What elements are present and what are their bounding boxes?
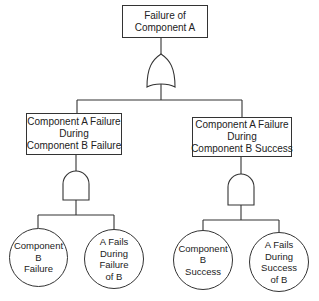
basic-event-component-b-failure: Component B Failure (9, 228, 68, 287)
basic-event-a-fails-during-failure-of-b: A Fails During Failure of B (84, 229, 144, 289)
and-gate-icon-right (228, 174, 254, 205)
top-event-box: Failure of Component A (122, 5, 208, 38)
basic-event-4-line-2: During (265, 251, 293, 263)
basic-event-3-line-2: B (200, 254, 206, 266)
basic-event-component-b-success: Component B Success (173, 230, 233, 290)
basic-event-2-line-2: During (100, 248, 128, 260)
basic-event-1-line-2: B (35, 252, 41, 264)
basic-event-4-line-1: A Fails (265, 239, 294, 251)
basic-event-3-line-3: Success (185, 266, 221, 278)
basic-event-2-line-4: of B (106, 271, 123, 283)
intermediate-left-line-1: Component A Failure (27, 116, 120, 128)
basic-event-a-fails-during-success-of-b: A Fails During Success of B (249, 232, 309, 292)
basic-event-1-line-1: Component (14, 240, 63, 252)
basic-event-4-line-3: Success (261, 262, 297, 274)
intermediate-right-line-3: Component B Success (191, 143, 293, 155)
intermediate-right-line-1: Component A Failure (195, 119, 288, 131)
and-gate-icon-left (63, 171, 89, 200)
basic-event-1-line-3: Failure (24, 263, 53, 275)
or-gate-icon (147, 54, 175, 87)
basic-event-4-line-4: of B (271, 274, 288, 286)
intermediate-left-line-2: During (59, 128, 88, 140)
intermediate-event-right: Component A Failure During Component B S… (192, 117, 292, 157)
basic-event-3-line-1: Component (178, 243, 227, 255)
intermediate-right-line-2: During (227, 131, 256, 143)
intermediate-left-line-3: Component B Failure (27, 140, 122, 152)
basic-event-2-line-3: Failure (99, 259, 128, 271)
top-event-line-1: Failure of (144, 10, 186, 22)
basic-event-2-line-1: A Fails (100, 236, 129, 248)
top-event-line-2: Component A (135, 22, 196, 34)
intermediate-event-left: Component A Failure During Component B F… (26, 113, 122, 155)
